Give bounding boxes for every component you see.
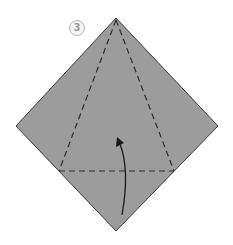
step-number-badge: 3 bbox=[69, 20, 85, 36]
origami-diagram: 3 bbox=[0, 0, 233, 245]
step-number-label: 3 bbox=[74, 23, 81, 33]
origami-paper-figure bbox=[0, 0, 233, 245]
paper-diamond bbox=[16, 18, 218, 231]
